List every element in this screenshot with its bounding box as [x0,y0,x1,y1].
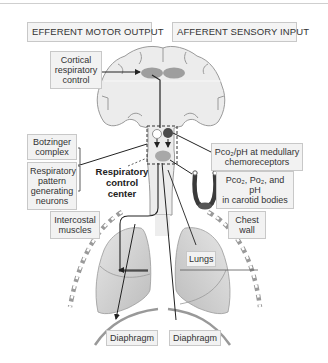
afferent-sensory-input-header: AFFERENT SENSORY INPUT [172,22,297,42]
label-line: Pco₂, Po₂, and pH [219,175,291,195]
rpgn-label: Respiratory pattern generating neurons [27,162,77,210]
label-line: neurons [30,196,74,206]
respiratory-control-center-label: Respiratory control center [90,166,154,199]
label-line: wall [231,225,263,235]
label-line: in carotid bodies [219,195,291,205]
botzinger-node-icon [153,130,162,139]
botzinger-complex-label: Botzinger complex [27,134,77,160]
right-lung-icon [175,228,230,314]
rpgn-node-icon [155,151,171,162]
cortical-center-right [163,68,185,79]
label-line: pattern [30,176,74,186]
label-line: generating [30,186,74,196]
label-line: Intercostal [53,215,97,225]
label-line: Respiratory [30,166,74,176]
label-line: center [90,188,154,199]
diaphragm-right-label: Diaphragm [169,330,221,346]
label-line: Chest [231,215,263,225]
intercostal-muscles-label: Intercostal muscles [50,211,100,239]
label-line: respiratory [53,65,99,75]
carotid-bodies-icon [193,171,217,210]
carotid-bodies-label: Pco₂, Po₂, and pH in carotid bodies [216,171,294,209]
label-line: control [53,75,99,85]
diaphragm-left-label: Diaphragm [106,330,158,346]
medullary-chemoreceptors-label: Pco₂/pH at medullary chemoreceptors [211,143,303,171]
label-line: Cortical [53,55,99,65]
cortical-center-left [141,68,163,79]
chest-wall-label: Chest wall [228,211,266,239]
label-line: Pco₂/pH at medullary [214,147,300,157]
label-line: chemoreceptors [214,157,300,167]
efferent-motor-output-header: EFFERENT MOTOR OUTPUT [27,22,152,42]
label-line: complex [30,147,74,157]
cortical-respiratory-control-label: Cortical respiratory control [50,51,102,89]
label-line: muscles [53,225,97,235]
lungs-label: Lungs [186,251,216,267]
label-line: Respiratory [90,166,154,177]
medullary-chemoreceptor-icon [163,128,173,138]
label-line: Botzinger [30,137,74,147]
label-line: control [90,177,154,188]
